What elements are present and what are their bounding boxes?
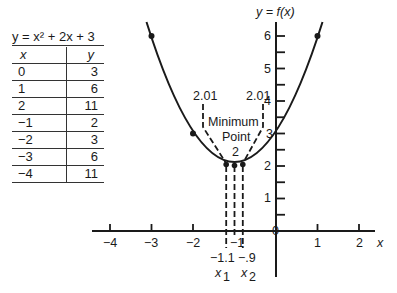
y-tick-label: 2: [264, 159, 271, 173]
x-tick-label: 2: [356, 236, 363, 250]
minimum-label-line1: Minimum: [208, 115, 259, 129]
right-value-label: 2.01: [246, 89, 270, 103]
x2-subscript: 2: [249, 270, 256, 284]
x1-label: x: [214, 266, 222, 280]
x1-subscript: 1: [223, 270, 230, 284]
x-tick-label: −2: [186, 236, 200, 250]
y-tick-label: 6: [264, 29, 271, 43]
minimum-label-line3: 2: [232, 145, 239, 159]
x-tick-label: 1: [314, 236, 321, 250]
y-axis-label: y = f(x): [255, 5, 295, 19]
x1-value-label: −1.1: [210, 251, 235, 265]
left-value-label: 2.01: [193, 89, 217, 103]
minimum-label-line2: Point: [222, 130, 251, 144]
x-tick-label: −4: [103, 236, 117, 250]
x-tick-label: −3: [144, 236, 158, 250]
origin-label: 0: [272, 224, 279, 238]
x2-label: x: [240, 266, 248, 280]
x2-value-label: −.9: [238, 251, 256, 265]
parabola-graph: −4 −3 −2 −1 0 1 2 x 1 2 3 4 5 6 y = f(x)…: [0, 0, 397, 293]
y-tick-label: 1: [264, 191, 271, 205]
y-tick-label: 5: [264, 62, 271, 76]
x-axis-label: x: [376, 236, 384, 250]
